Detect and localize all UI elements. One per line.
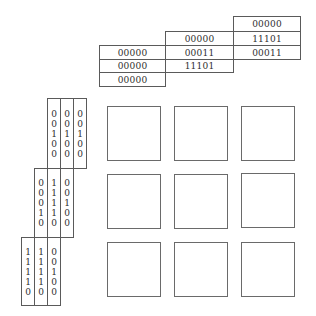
left-digit: 0 (51, 149, 57, 159)
left-digit: 1 (25, 277, 31, 287)
grid-cell (107, 106, 161, 161)
left-cell: 0 0 0 1 0 (34, 168, 48, 238)
top-cell-text: 00011 (252, 47, 282, 59)
left-cell: 1 1 1 1 0 (34, 237, 48, 306)
left-digit: 1 (25, 257, 31, 267)
top-cell-text: 00011 (185, 47, 215, 59)
left-digit: 1 (25, 247, 31, 257)
top-cell-text: 00000 (118, 60, 148, 72)
grid-cell (241, 106, 295, 161)
left-digit: 0 (25, 287, 31, 297)
left-digit: 0 (77, 119, 83, 129)
top-cell-text: 00000 (118, 74, 148, 86)
left-digit: 0 (64, 109, 70, 119)
grid-cell (241, 173, 295, 228)
left-digit: 0 (64, 218, 70, 228)
left-digit: 1 (51, 129, 57, 139)
left-digit: 1 (77, 129, 83, 139)
grid-cell (174, 174, 228, 229)
top-cell: 00000 (99, 45, 166, 60)
left-cell: 1 1 1 1 0 (47, 168, 61, 238)
left-digit: 0 (64, 149, 70, 159)
left-cell: 1 1 1 1 0 (21, 237, 35, 306)
grid-cell (241, 242, 295, 297)
left-digit: 0 (77, 149, 83, 159)
top-cell-text: 11101 (185, 60, 215, 72)
left-cell: 0 0 1 0 0 (60, 168, 74, 238)
top-cell-text: 00000 (185, 33, 215, 45)
grid-cell (107, 174, 161, 229)
left-digit: 1 (51, 188, 57, 198)
top-cell-text: 00000 (252, 18, 282, 30)
left-digit: 0 (51, 287, 57, 297)
left-cell: 0 0 1 0 0 (47, 98, 61, 169)
left-digit: 0 (38, 218, 44, 228)
left-digit: 0 (38, 188, 44, 198)
top-cell: 11101 (233, 31, 301, 46)
left-digit: 1 (51, 208, 57, 218)
left-digit: 1 (38, 257, 44, 267)
grid-cell (174, 242, 228, 297)
left-digit: 0 (38, 287, 44, 297)
left-digit: 1 (38, 247, 44, 257)
left-digit: 0 (77, 139, 83, 149)
top-cell: 00011 (165, 45, 234, 60)
top-cell-text: 00000 (118, 47, 148, 59)
left-digit: 1 (64, 129, 70, 139)
left-digit: 0 (64, 178, 70, 188)
top-cell: 00000 (233, 16, 301, 32)
top-cell-text: 11101 (252, 33, 282, 45)
left-digit: 0 (64, 188, 70, 198)
left-digit: 1 (51, 178, 57, 188)
left-digit: 0 (51, 247, 57, 257)
left-digit: 1 (64, 198, 70, 208)
left-digit: 0 (38, 198, 44, 208)
top-cell: 00000 (165, 31, 234, 46)
left-digit: 1 (38, 208, 44, 218)
left-digit: 0 (51, 139, 57, 149)
grid-cell (174, 106, 228, 161)
left-digit: 0 (51, 218, 57, 228)
top-cell: 00011 (233, 45, 301, 60)
left-digit: 0 (51, 277, 57, 287)
left-digit: 0 (51, 109, 57, 119)
left-digit: 1 (38, 267, 44, 277)
left-digit: 0 (38, 178, 44, 188)
top-cell: 11101 (165, 59, 234, 73)
left-digit: 0 (51, 257, 57, 267)
left-digit: 0 (64, 139, 70, 149)
left-cell: 0 0 1 0 0 (47, 237, 61, 306)
left-digit: 1 (38, 277, 44, 287)
left-digit: 1 (51, 198, 57, 208)
left-digit: 0 (64, 119, 70, 129)
left-cell: 0 0 1 0 0 (73, 98, 87, 169)
left-digit: 0 (51, 119, 57, 129)
left-digit: 0 (77, 109, 83, 119)
top-cell: 00000 (99, 59, 166, 73)
left-digit: 0 (64, 208, 70, 218)
left-cell: 0 0 1 0 0 (60, 98, 74, 169)
top-cell: 00000 (99, 72, 166, 87)
left-digit: 1 (25, 267, 31, 277)
left-digit: 1 (51, 267, 57, 277)
grid-cell (107, 242, 161, 297)
